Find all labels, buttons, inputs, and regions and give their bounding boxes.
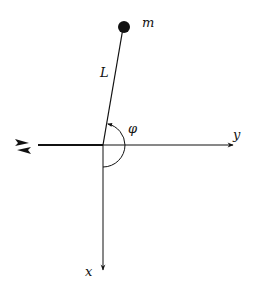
x-axis-label: x [85, 264, 93, 279]
angle-label: φ [128, 121, 138, 136]
length-label: L [99, 65, 109, 80]
mass-label: m [142, 15, 154, 30]
y-axis-label: y [232, 127, 241, 142]
double-arrow-left-right-icon [15, 139, 31, 154]
pendulum-mass [118, 21, 130, 33]
pendulum-diagram: m L φ y x [0, 0, 256, 293]
pendulum-rod [103, 28, 123, 145]
